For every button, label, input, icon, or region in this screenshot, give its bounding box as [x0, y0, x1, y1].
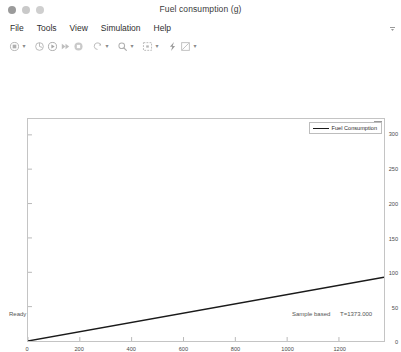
x-tick-1000: 1000 — [281, 346, 293, 352]
x-tick-0: 0 — [25, 346, 28, 352]
autoscale-icon[interactable] — [141, 40, 154, 53]
toolbar: ▾ — [0, 36, 401, 56]
configuration-parameters-icon[interactable] — [33, 40, 46, 53]
legend-label-fuel-consumption: Fuel Consumption — [332, 125, 377, 131]
menu-item-simulation[interactable]: Simulation — [101, 23, 141, 33]
plot-region: 300 250 200 150 100 50 0 — [0, 56, 401, 304]
window-title: Fuel consumption (g) — [0, 4, 401, 14]
y-tick-0: 0 — [395, 339, 398, 345]
menu-item-help[interactable]: Help — [154, 23, 171, 33]
x-tick-1200: 1200 — [333, 346, 345, 352]
style-dropdown-caret-icon[interactable]: ▾ — [192, 40, 198, 53]
x-tick-600: 600 — [179, 346, 188, 352]
title-bar: Fuel consumption (g) — [0, 0, 401, 20]
y-tick-150: 150 — [389, 236, 398, 242]
status-bar: Ready Sample based T=1373.000 — [0, 304, 401, 324]
stop-icon[interactable] — [72, 40, 85, 53]
step-forward-icon[interactable] — [59, 40, 72, 53]
x-tick-800: 800 — [231, 346, 240, 352]
menu-bar: File Tools View Simulation Help — [0, 20, 401, 36]
y-tick-100: 100 — [389, 270, 398, 276]
legend[interactable]: Fuel Consumption — [309, 122, 382, 134]
style-icon[interactable] — [179, 40, 192, 53]
data-cursor-icon[interactable] — [91, 40, 104, 53]
print-icon[interactable] — [8, 40, 21, 53]
y-tick-200: 200 — [389, 201, 398, 207]
status-mode: Sample based — [292, 311, 330, 317]
zoom-icon[interactable] — [116, 40, 129, 53]
status-time: T=1373.000 — [340, 311, 372, 317]
status-state: Ready — [9, 311, 26, 317]
x-tick-200: 200 — [74, 346, 83, 352]
y-tick-250: 250 — [389, 166, 398, 172]
menu-item-file[interactable]: File — [10, 23, 24, 33]
chevron-down-icon[interactable] — [389, 25, 396, 32]
x-tick-400: 400 — [127, 346, 136, 352]
menu-item-tools[interactable]: Tools — [37, 23, 57, 33]
legend-line-swatch — [313, 128, 329, 129]
highlight-signal-icon[interactable] — [166, 40, 179, 53]
menu-item-view[interactable]: View — [70, 23, 88, 33]
run-icon[interactable] — [46, 40, 59, 53]
y-tick-300: 300 — [389, 131, 398, 137]
